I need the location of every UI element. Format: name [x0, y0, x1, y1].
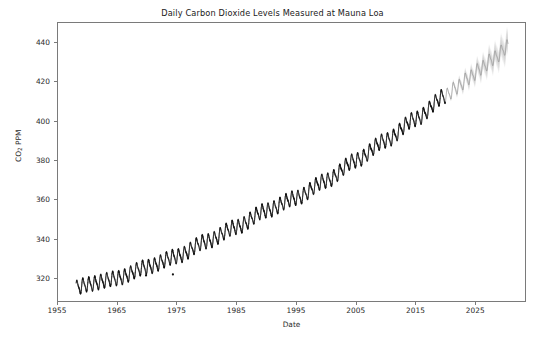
y-axis-label: CO2 PPM	[14, 130, 23, 162]
x-axis-tick-label: 1995	[287, 306, 306, 315]
observed-data-line	[76, 89, 445, 295]
y-axis-tick-label: 380	[0, 156, 50, 165]
y-axis-label-subscript: 2	[17, 147, 23, 151]
outlier-point	[145, 274, 147, 276]
chart-figure: Daily Carbon Dioxide Levels Measured at …	[0, 0, 545, 341]
x-axis-tick-mark	[236, 302, 237, 305]
y-axis-tick-label: 440	[0, 37, 50, 46]
x-axis-tick-label: 2015	[406, 306, 425, 315]
x-axis-tick-mark	[117, 302, 118, 305]
x-axis-tick-label: 1965	[107, 306, 126, 315]
x-axis-label: Date	[57, 320, 526, 329]
chart-plot-area	[57, 22, 526, 302]
x-axis-tick-mark	[296, 302, 297, 305]
y-axis-label-prefix: CO	[14, 151, 23, 162]
x-axis-tick-mark	[475, 302, 476, 305]
y-axis-tick-label: 320	[0, 274, 50, 283]
x-axis-tick-label: 2005	[346, 306, 365, 315]
x-axis-tick-mark	[57, 302, 58, 305]
x-axis-tick-mark	[356, 302, 357, 305]
y-axis-tick-label: 360	[0, 195, 50, 204]
x-axis-tick-mark	[176, 302, 177, 305]
x-axis-tick-mark	[415, 302, 416, 305]
outlier-point	[172, 273, 174, 275]
x-axis-tick-label: 1975	[167, 306, 186, 315]
chart-title: Daily Carbon Dioxide Levels Measured at …	[0, 8, 545, 18]
y-axis-label-suffix: PPM	[14, 130, 23, 148]
y-axis-tick-label: 340	[0, 234, 50, 243]
x-axis-tick-label: 1985	[227, 306, 246, 315]
y-axis-tick-label: 420	[0, 77, 50, 86]
x-axis-tick-label: 2025	[466, 306, 485, 315]
x-axis-tick-label: 1955	[48, 306, 67, 315]
y-axis-tick-label: 400	[0, 116, 50, 125]
